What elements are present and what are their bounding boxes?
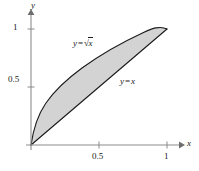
x-tick-label-1: 1 (164, 152, 169, 161)
y-tick-label-0-5: 0.5 (8, 75, 19, 84)
line-label-rhs: x (131, 76, 135, 86)
sqrt-label-radical: √x (84, 39, 93, 48)
x-axis-label: x (187, 139, 191, 148)
x-axis-arrowhead (179, 142, 185, 149)
sqrt-label-equals: = (77, 38, 84, 48)
y-axis-label: y (31, 1, 35, 10)
figure-container: y x 1 0.5 0.5 1 y=√x y=x (0, 0, 199, 171)
curve-y-equals-x (31, 29, 167, 145)
x-tick-label-0-5: 0.5 (92, 152, 103, 161)
y-tick-label-1: 1 (13, 23, 18, 32)
sqrt-label-radicand: x (88, 37, 93, 48)
curve-label-sqrt-x: y=√x (73, 39, 93, 48)
plot-area (0, 0, 199, 171)
curve-label-y-equals-x: y=x (120, 77, 135, 86)
